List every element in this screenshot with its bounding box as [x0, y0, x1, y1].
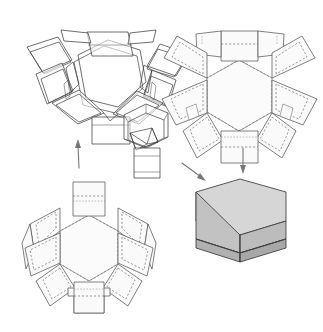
assembly-diagram: [0, 0, 323, 332]
diagram-canvas: [0, 0, 323, 332]
tray-neck-panel: [134, 148, 160, 178]
net-base-panel-bottom: [74, 282, 104, 313]
net-lid-panel-top: [221, 31, 258, 61]
folded-panel-top: [87, 32, 133, 56]
net-base-panel-top: [73, 182, 105, 216]
figure-finished-box: [196, 179, 286, 262]
